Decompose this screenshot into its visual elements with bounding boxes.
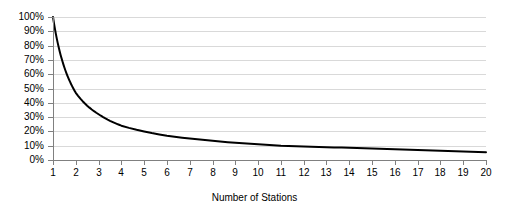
- x-tick-label: 20: [475, 168, 497, 178]
- x-tick-label: 9: [224, 168, 246, 178]
- x-tick-mark: [121, 161, 122, 165]
- y-tick-label: 60%: [0, 69, 44, 79]
- x-tick-label: 18: [429, 168, 451, 178]
- x-tick-label: 5: [133, 168, 155, 178]
- x-tick-mark: [440, 161, 441, 165]
- x-tick-label: 17: [407, 168, 429, 178]
- y-tick-label: 50%: [0, 84, 44, 94]
- chart-container: 0%10%20%30%40%50%60%70%80%90%100% 123456…: [0, 0, 509, 217]
- x-tick-label: 4: [110, 168, 132, 178]
- x-tick-label: 3: [88, 168, 110, 178]
- x-tick-label: 11: [270, 168, 292, 178]
- x-tick-label: 2: [65, 168, 87, 178]
- x-tick-mark: [258, 161, 259, 165]
- x-tick-label: 10: [247, 168, 269, 178]
- x-tick-mark: [372, 161, 373, 165]
- series-line-chart: [53, 17, 486, 160]
- x-tick-mark: [486, 161, 487, 165]
- x-tick-mark: [76, 161, 77, 165]
- x-tick-mark: [326, 161, 327, 165]
- x-tick-label: 16: [384, 168, 406, 178]
- x-axis-line: [53, 160, 487, 161]
- y-tick-mark: [48, 17, 53, 18]
- x-tick-label: 8: [202, 168, 224, 178]
- plot-area: [53, 17, 486, 160]
- y-tick-mark: [48, 146, 53, 147]
- y-tick-mark: [48, 89, 53, 90]
- x-tick-mark: [418, 161, 419, 165]
- x-axis-title: Number of Stations: [0, 192, 509, 204]
- x-tick-mark: [213, 161, 214, 165]
- series-line-share-per-station: [53, 17, 486, 152]
- y-tick-mark: [48, 74, 53, 75]
- x-tick-mark: [349, 161, 350, 165]
- x-tick-label: 14: [338, 168, 360, 178]
- y-tick-label: 40%: [0, 98, 44, 108]
- y-tick-label: 0%: [0, 155, 44, 165]
- x-tick-mark: [463, 161, 464, 165]
- x-tick-label: 7: [179, 168, 201, 178]
- x-tick-mark: [53, 161, 54, 165]
- x-tick-mark: [395, 161, 396, 165]
- y-axis-line: [53, 17, 54, 161]
- x-tick-mark: [281, 161, 282, 165]
- y-tick-label: 30%: [0, 112, 44, 122]
- y-tick-label: 90%: [0, 26, 44, 36]
- y-tick-label: 80%: [0, 41, 44, 51]
- y-tick-label: 10%: [0, 141, 44, 151]
- x-tick-label: 6: [156, 168, 178, 178]
- y-tick-mark: [48, 103, 53, 104]
- x-tick-mark: [190, 161, 191, 165]
- y-tick-label: 70%: [0, 55, 44, 65]
- x-tick-label: 12: [293, 168, 315, 178]
- x-tick-mark: [167, 161, 168, 165]
- x-tick-label: 13: [315, 168, 337, 178]
- y-tick-mark: [48, 117, 53, 118]
- y-tick-label: 100%: [0, 12, 44, 22]
- x-tick-label: 15: [361, 168, 383, 178]
- y-tick-mark: [48, 46, 53, 47]
- x-tick-mark: [235, 161, 236, 165]
- y-tick-label: 20%: [0, 126, 44, 136]
- y-tick-mark: [48, 60, 53, 61]
- x-tick-mark: [99, 161, 100, 165]
- x-tick-mark: [304, 161, 305, 165]
- y-tick-mark: [48, 31, 53, 32]
- x-tick-label: 1: [42, 168, 64, 178]
- x-tick-mark: [144, 161, 145, 165]
- y-tick-mark: [48, 131, 53, 132]
- x-tick-label: 19: [452, 168, 474, 178]
